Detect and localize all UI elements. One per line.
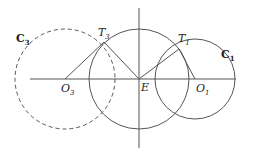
segment-t1-o1 [179,49,195,79]
label-e: E [140,81,149,94]
geometry-diagram: C3 C1 T3 T1 O3 O1 E [0,0,253,152]
segment-e-t3 [104,42,139,79]
label-t3: T3 [98,26,110,41]
segment-e-t1 [139,49,179,79]
label-c3: C3 [16,32,30,47]
label-t1: T1 [178,32,190,47]
segment-t3-o3 [65,42,104,79]
label-o1: O1 [196,82,210,97]
label-c1: C1 [221,48,235,63]
label-o3: O3 [61,82,75,97]
